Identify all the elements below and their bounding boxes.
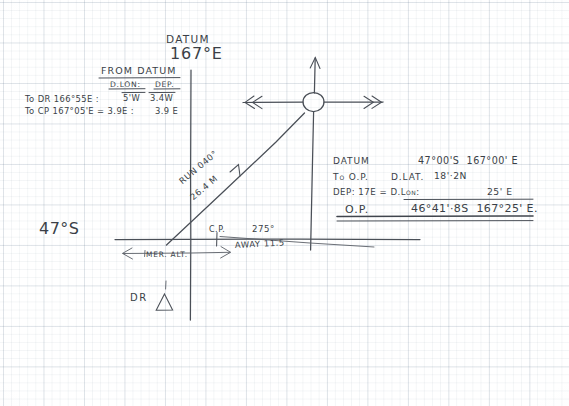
from-datum-row-2-label: To CP 167°05'E = 3.9E : — [25, 107, 134, 117]
dr-symbol-triangle — [156, 281, 172, 310]
from-datum-row-1-dlon: 5'W — [123, 94, 140, 104]
op-position-circle — [303, 93, 324, 112]
op-vertical-axis — [310, 58, 320, 251]
from-datum-col-dlon: D.LON: — [110, 81, 141, 90]
from-datum-row-1-dep: 3.4W — [150, 94, 173, 104]
bearing-275-label: 275° — [252, 225, 275, 235]
result-to-op-label: To O.P. — [333, 172, 369, 182]
op-horizontal-axis — [243, 96, 383, 109]
from-datum-row-1-label: To DR 166°55E : — [25, 95, 99, 105]
mer-alt-label: MER. ALT. — [146, 251, 188, 260]
result-dlat-label: D.LAT. — [391, 172, 424, 182]
result-op-value: 46°41'·8S 167°25' E. — [411, 203, 538, 216]
datum-longitude-label: 167°E — [170, 45, 223, 63]
from-datum-col-dep: DEP. — [155, 81, 174, 90]
result-dlat-value: 18'·2N — [434, 171, 467, 182]
from-datum-title: FROM DATUM — [101, 66, 177, 77]
result-datum-value: 47°00'S 167°00' E — [418, 155, 518, 166]
from-datum-row-2-dep: 3.9 E — [155, 107, 178, 117]
result-op-label: O.P. — [345, 204, 369, 217]
result-dep-dlon-label: DEP: 17E = D.Lon: — [333, 188, 420, 198]
cp-label: C.P. — [209, 225, 225, 234]
dr-label: DR — [130, 292, 148, 304]
result-dlon-value: 25' E — [487, 187, 512, 198]
latitude-47s-label: 47°S — [39, 220, 80, 238]
navigation-worksheet: .ln { stroke:#4a4f57; stroke-width:1.25;… — [0, 0, 569, 406]
result-datum-label: DATUM — [333, 156, 370, 166]
